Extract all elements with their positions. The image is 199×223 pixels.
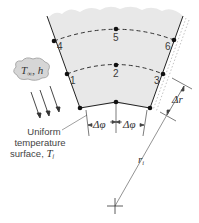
surface-caption-line1: Uniform — [27, 126, 60, 137]
heat-flow-arrows — [31, 86, 60, 118]
surface-node-center — [114, 100, 119, 105]
surface-node-right — [148, 106, 153, 111]
surface-leader-line — [62, 115, 87, 130]
node-label-3: 3 — [154, 75, 160, 86]
node-5 — [114, 27, 119, 32]
node-label-1: 1 — [70, 75, 76, 86]
node-1 — [65, 72, 70, 77]
node-4 — [52, 39, 57, 44]
center-cross-icon — [107, 198, 123, 214]
delta-phi-label-right: Δφ — [122, 118, 136, 130]
node-label-5: 5 — [113, 32, 119, 43]
node-6 — [172, 38, 177, 43]
node-label-2: 2 — [113, 68, 119, 79]
node-label-4: 4 — [57, 41, 63, 52]
delta-phi-label-left: Δφ — [92, 118, 106, 130]
node-label-6: 6 — [165, 41, 171, 52]
convection-label: T∞, h — [21, 64, 44, 78]
node-2 — [114, 63, 119, 68]
finite-difference-polar-diagram: 4 5 6 1 2 3 T∞, h Uniform temperature su… — [0, 0, 199, 223]
radius-label: ri — [138, 153, 144, 166]
node-3 — [161, 72, 166, 77]
surface-caption-line2: temperature — [14, 137, 65, 148]
surface-caption-line3: surface, Ti — [10, 147, 55, 160]
delta-r-label: Δr — [171, 93, 183, 105]
surface-node-left — [78, 106, 83, 111]
